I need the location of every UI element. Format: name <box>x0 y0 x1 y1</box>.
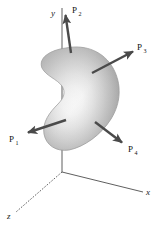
diagram-canvas: y x z P 1 P 2 <box>0 0 159 225</box>
force-label-p2-subscript: 2 <box>79 11 82 17</box>
axis-label-z: z <box>6 211 11 221</box>
axis-label-y: y <box>50 8 55 18</box>
body-group <box>41 47 119 150</box>
force-label-p1-subscript: 1 <box>16 140 19 146</box>
force-diagram-figure: y x z P 1 P 2 <box>0 0 159 225</box>
axis-label-x: x <box>145 187 150 197</box>
force-label-p1: P 1 <box>9 134 19 146</box>
force-label-p3-subscript: 3 <box>144 48 147 54</box>
blob-rim-shading <box>41 47 119 150</box>
force-label-p2-letter: P <box>72 5 77 15</box>
force-label-p4-subscript: 4 <box>135 150 138 156</box>
axis-line-x <box>62 172 143 192</box>
force-label-p3: P 3 <box>137 42 147 54</box>
force-label-p3-letter: P <box>137 42 142 52</box>
force-label-p2: P 2 <box>72 5 82 17</box>
force-label-p1-letter: P <box>9 134 14 144</box>
axis-line-z <box>16 172 62 212</box>
force-label-p4-letter: P <box>128 144 133 154</box>
force-label-p4: P 4 <box>128 144 138 156</box>
